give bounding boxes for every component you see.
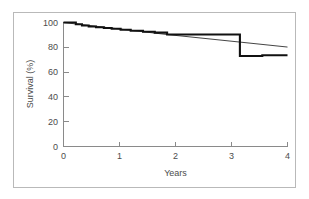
y-tick-label-60: 60 (48, 67, 58, 77)
kaplan-meier-survival-curve (64, 23, 288, 56)
y-tick-label-80: 80 (48, 42, 58, 52)
figure-root: 0 20 40 60 80 100 0 1 2 3 4 Years Surviv… (0, 0, 309, 199)
y-tick-label-20: 20 (48, 117, 58, 127)
y-tick-label-100: 100 (43, 18, 58, 28)
x-tick-label-1: 1 (117, 151, 122, 161)
x-tick-label-0: 0 (61, 151, 66, 161)
survival-chart: 0 20 40 60 80 100 0 1 2 3 4 Years Surviv… (0, 0, 309, 199)
x-tick-label-2: 2 (173, 151, 178, 161)
y-tick-marks (64, 23, 69, 147)
y-tick-label-0: 0 (53, 142, 58, 152)
x-axis-title: Years (164, 168, 187, 178)
y-axis-title: Survival (%) (25, 60, 35, 109)
y-tick-label-40: 40 (48, 92, 58, 102)
x-tick-label-3: 3 (229, 151, 234, 161)
x-tick-marks (64, 142, 288, 147)
x-tick-label-4: 4 (285, 151, 290, 161)
